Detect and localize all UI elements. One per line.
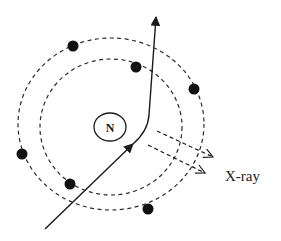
deflected-trajectory [133, 17, 156, 144]
electron [131, 62, 142, 73]
nucleus: N [94, 113, 126, 141]
nucleus-label: N [106, 121, 115, 135]
electron [68, 41, 79, 52]
incoming-trajectory [45, 144, 133, 229]
xray-label: X-ray [225, 168, 260, 184]
xray-arrow [157, 131, 213, 157]
bremsstrahlung-diagram: N X-ray [0, 0, 281, 241]
electron [65, 179, 76, 190]
xray-emission: X-ray [148, 131, 260, 184]
electron [143, 204, 154, 215]
electron [17, 149, 28, 160]
electron [189, 84, 200, 95]
